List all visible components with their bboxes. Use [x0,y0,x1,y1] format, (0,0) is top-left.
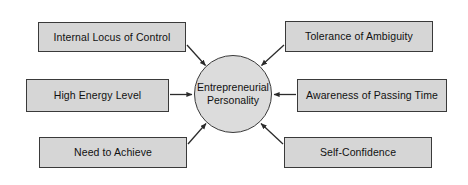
node-self-confidence: Self-Confidence [284,137,432,168]
node-high-energy-level: High Energy Level [26,79,169,112]
entrepreneurial-personality-diagram: Internal Locus of Control High Energy Le… [0,0,468,185]
center-node-entrepreneurial-personality: EntrepreneurialPersonality [194,55,272,133]
node-internal-locus-of-control: Internal Locus of Control [38,22,186,52]
node-label: Self-Confidence [316,146,400,158]
node-label: Need to Achieve [70,146,156,158]
node-label: Awareness of Passing Time [302,89,442,101]
connector-need-achieve [188,124,206,145]
connector-internal-locus [187,45,206,66]
node-label: High Energy Level [50,89,146,101]
center-node-label-line2: Personality [207,94,259,106]
connector-tolerance [262,45,285,66]
node-awareness-of-passing-time: Awareness of Passing Time [297,79,447,112]
node-label: Tolerance of Ambiguity [301,30,417,42]
center-node-label-line1: Entrepreneurial [197,81,269,93]
node-tolerance-of-ambiguity: Tolerance of Ambiguity [285,21,433,52]
node-label: Internal Locus of Control [50,31,175,43]
node-need-to-achieve: Need to Achieve [39,137,187,168]
connector-self-confidence [261,124,283,145]
center-node-label: EntrepreneurialPersonality [194,81,272,107]
